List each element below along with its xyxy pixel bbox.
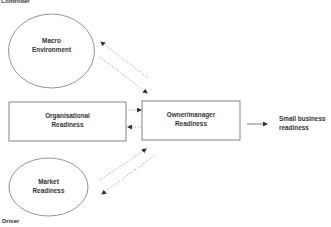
owner-manager-readiness-label: Owner/manager Readiness (142, 111, 240, 128)
arrow-owner-to-macro (101, 42, 148, 78)
arrow-owner-to-market (102, 156, 154, 194)
market-line2: Readiness (33, 187, 65, 196)
arrow-macro-to-owner (100, 57, 147, 93)
controller-label: Controller (1, 0, 30, 4)
organisational-readiness-label: Organisational Readiness (9, 112, 126, 129)
driver-label: Driver (2, 218, 19, 224)
macro-line1: Macro (42, 37, 61, 46)
outcome-line1: Small business (279, 115, 326, 124)
owner-line1: Owner/manager (167, 111, 215, 120)
macro-line2: Environment (32, 46, 71, 55)
organisational-line2: Readiness (52, 121, 84, 130)
organisational-line1: Organisational (45, 112, 90, 121)
owner-line2: Readiness (175, 120, 207, 129)
market-readiness-label: Market Readiness (9, 178, 88, 195)
outcome-line2: readiness (279, 124, 326, 133)
arrow-market-to-owner (100, 149, 146, 180)
small-business-readiness-label: Small business readiness (279, 115, 326, 132)
market-line1: Market (38, 178, 59, 187)
macro-environment-label: Macro Environment (9, 37, 94, 54)
